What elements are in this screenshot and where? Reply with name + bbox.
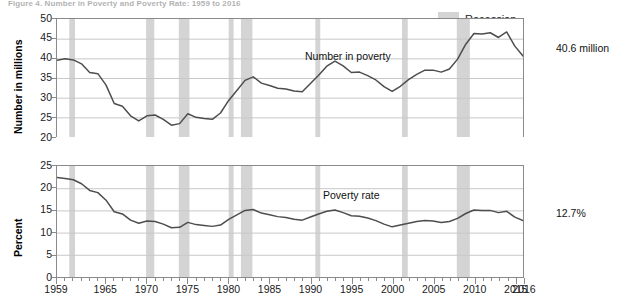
x-axis-tick-label: 2005	[422, 283, 445, 295]
y-axis-title-top: Number in millions	[12, 39, 24, 134]
x-axis-tick-mark	[204, 278, 205, 281]
x-axis-tick-mark	[179, 278, 180, 281]
y-axis-tick-mark	[52, 78, 56, 79]
x-axis-tick-label: 1985	[258, 283, 281, 295]
x-axis-tick-label: 2016	[512, 283, 535, 295]
recession-band	[402, 166, 408, 277]
data-line	[57, 178, 523, 228]
y-axis-tick-mark	[52, 187, 56, 188]
y-axis-tick-mark	[52, 58, 56, 59]
x-axis-tick-mark	[508, 278, 509, 281]
x-axis-tick-mark	[278, 278, 279, 281]
x-axis-tick-mark	[384, 278, 385, 281]
y-axis-tick-mark	[52, 255, 56, 256]
y-axis-tick-value: 25	[26, 160, 52, 171]
x-axis-tick-label: 1959	[44, 283, 67, 295]
x-axis-tick-mark	[425, 278, 426, 281]
x-axis-tick-label: 2010	[463, 283, 486, 295]
x-axis-tick-mark	[97, 278, 98, 281]
y-axis-tick-mark	[52, 137, 56, 138]
plot-svg-bottom	[57, 166, 523, 277]
x-axis-tick-mark	[81, 278, 82, 281]
x-axis-tick-mark	[286, 278, 287, 281]
series-label-poverty-rate: Poverty rate	[323, 189, 380, 201]
x-axis-tick-label: 1980	[217, 283, 240, 295]
x-axis-tick-mark	[450, 278, 451, 281]
x-axis-tick-label: 1965	[94, 283, 117, 295]
x-axis-tick-mark	[245, 278, 246, 281]
x-axis-tick-mark	[491, 278, 492, 281]
x-axis-tick-mark	[220, 278, 221, 281]
x-axis-tick-mark	[302, 278, 303, 281]
x-axis-tick-mark	[417, 278, 418, 281]
x-axis-tick-mark	[64, 278, 65, 281]
y-axis-tick-value: 5	[26, 249, 52, 260]
x-axis-tick-mark	[319, 278, 320, 281]
y-axis-tick-value: 40	[26, 52, 52, 63]
x-axis-tick-mark	[171, 278, 172, 281]
x-axis-tick-mark	[138, 278, 139, 281]
x-axis-tick-mark	[212, 278, 213, 281]
x-axis-tick-mark	[130, 278, 131, 281]
x-axis-tick-mark	[483, 278, 484, 281]
x-axis-tick-mark	[72, 278, 73, 281]
x-axis-tick-label: 2000	[381, 283, 404, 295]
x-axis-tick-mark	[294, 278, 295, 281]
x-axis-tick-mark	[458, 278, 459, 281]
x-axis-tick-label: 1970	[135, 283, 158, 295]
x-axis-tick-mark	[376, 278, 377, 281]
y-axis-tick-value: 35	[26, 72, 52, 83]
x-axis-tick-label: 1990	[299, 283, 322, 295]
x-axis-tick-label: 1975	[176, 283, 199, 295]
y-axis-tick-mark	[52, 97, 56, 98]
plot-svg-top	[57, 19, 523, 137]
x-axis-tick-mark	[401, 278, 402, 281]
plot-panel-poverty-rate	[56, 165, 524, 277]
x-axis-tick-mark	[442, 278, 443, 281]
y-axis-tick-mark	[52, 210, 56, 211]
x-axis-tick-mark	[261, 278, 262, 281]
recession-band	[241, 166, 252, 277]
x-axis-tick-mark	[409, 278, 410, 281]
x-axis-line	[56, 277, 524, 278]
x-axis-tick-mark	[155, 278, 156, 281]
x-axis-tick-mark	[89, 278, 90, 281]
y-axis-tick-mark	[52, 165, 56, 166]
y-axis-tick-value: 15	[26, 204, 52, 215]
y-axis-tick-mark	[52, 18, 56, 19]
plot-panel-number-in-poverty	[56, 18, 524, 137]
y-axis-tick-value: 50	[26, 13, 52, 24]
recession-band	[69, 166, 75, 277]
y-axis-tick-mark	[52, 232, 56, 233]
x-axis-tick-mark	[343, 278, 344, 281]
x-axis-tick-mark	[360, 278, 361, 281]
y-axis-tick-value: 25	[26, 112, 52, 123]
x-axis-tick-mark	[196, 278, 197, 281]
y-axis-title-bottom: Percent	[12, 218, 24, 257]
x-axis-tick-label: 1995	[340, 283, 363, 295]
x-axis-tick-mark	[163, 278, 164, 281]
end-value-poverty-rate: 12.7%	[556, 207, 586, 219]
end-value-number-in-poverty: 40.6 million	[556, 42, 609, 54]
x-axis-tick-mark	[368, 278, 369, 281]
y-axis-tick-value: 10	[26, 227, 52, 238]
y-axis-tick-value: 45	[26, 32, 52, 43]
y-axis-tick-mark	[52, 117, 56, 118]
poverty-figure: Figure 4. Number in Poverty and Poverty …	[0, 0, 631, 298]
recession-band	[457, 166, 470, 277]
y-axis-tick-value: 20	[26, 132, 52, 143]
recession-band	[229, 166, 234, 277]
x-axis-tick-mark	[327, 278, 328, 281]
x-axis-tick-mark	[499, 278, 500, 281]
y-axis-tick-mark	[52, 38, 56, 39]
recession-band	[179, 166, 190, 277]
x-axis-tick-mark	[335, 278, 336, 281]
x-axis-tick-mark	[467, 278, 468, 281]
recession-band	[315, 166, 320, 277]
figure-title: Figure 4. Number in Poverty and Poverty …	[8, 0, 241, 8]
y-axis-tick-value: 20	[26, 182, 52, 193]
series-label-number-in-poverty: Number in poverty	[305, 50, 391, 62]
x-axis-tick-mark	[237, 278, 238, 281]
x-axis-tick-mark	[253, 278, 254, 281]
x-axis-tick-mark	[113, 278, 114, 281]
